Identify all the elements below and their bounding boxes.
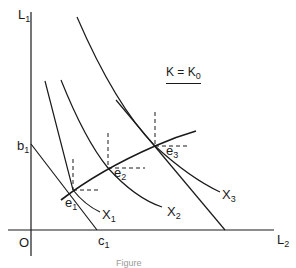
x1-letter: X: [102, 207, 111, 222]
x-axis-label: L2: [277, 233, 289, 249]
point-e3-label: e3: [166, 144, 178, 160]
isoquant-x3: [77, 17, 220, 192]
x2-letter: X: [167, 204, 176, 219]
condition-subscript: 0: [196, 71, 201, 81]
isoquant-x2-label: X2: [167, 205, 181, 221]
figure-caption: Figure: [116, 258, 142, 268]
y-axis-subscript: 1: [25, 14, 30, 24]
b-subscript: 1: [24, 145, 29, 155]
c-subscript: 1: [105, 240, 110, 250]
isoquant-x1-label: X1: [102, 208, 116, 224]
origin-letter: O: [19, 235, 29, 250]
x2-subscript: 2: [176, 211, 181, 221]
b1-label: b1: [17, 139, 29, 155]
capital-condition-label: K = K0: [166, 66, 201, 84]
isoquant-x3-label: X3: [222, 188, 236, 204]
x-axis-subscript: 2: [284, 239, 289, 249]
x3-letter: X: [222, 187, 231, 202]
e2-subscript: 2: [121, 172, 126, 182]
x3-subscript: 3: [231, 194, 236, 204]
e1-subscript: 1: [72, 202, 77, 212]
y-axis-label: L1: [18, 8, 30, 24]
e3-subscript: 3: [173, 150, 178, 160]
point-e2-label: e2: [114, 166, 126, 182]
origin-label: O: [19, 236, 29, 249]
isoquant-x2: [61, 80, 162, 207]
c1-label: c1: [98, 234, 110, 250]
point-e1-label: e1: [65, 196, 77, 212]
x1-subscript: 1: [111, 214, 116, 224]
condition-text: K = K: [166, 65, 196, 79]
